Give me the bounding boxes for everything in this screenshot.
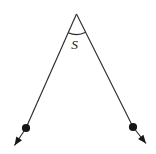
left-point-dot xyxy=(22,124,30,132)
geometry-figure: S xyxy=(0,0,156,154)
angle-label: S xyxy=(71,37,78,52)
angle-diagram: S xyxy=(0,0,156,154)
right-point-dot xyxy=(129,123,137,131)
